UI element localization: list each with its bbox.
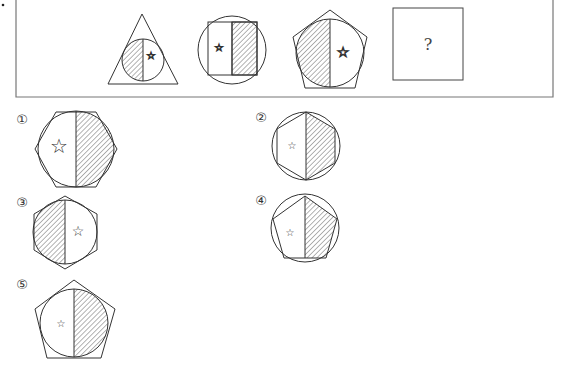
star-icon: ☆ bbox=[57, 318, 66, 329]
sequence-figure-2: ☆ bbox=[198, 16, 266, 84]
star-icon: ☆ bbox=[288, 140, 297, 151]
option-label: ① bbox=[16, 112, 28, 127]
question-mark: ? bbox=[424, 35, 433, 54]
sequence-figure-1: ☆ bbox=[108, 14, 178, 84]
option-2[interactable]: ② ☆ bbox=[255, 110, 340, 180]
puzzle-canvas: ☆ ☆ ☆ ? ① ☆ ② ☆ ③ bbox=[0, 0, 568, 366]
answer-placeholder-box: ? bbox=[393, 8, 463, 80]
option-label: ② bbox=[255, 110, 267, 125]
star-icon: ☆ bbox=[50, 134, 68, 158]
option-label: ④ bbox=[255, 193, 267, 208]
question-frame bbox=[16, 0, 553, 97]
option-4[interactable]: ④ ☆ bbox=[255, 193, 339, 262]
star-icon: ☆ bbox=[215, 42, 224, 53]
star-icon: ☆ bbox=[286, 227, 295, 238]
sequence-figure-3: ☆ bbox=[293, 10, 367, 88]
option-1[interactable]: ① ☆ bbox=[16, 111, 117, 187]
option-label: ⑤ bbox=[16, 277, 28, 292]
option-5[interactable]: ⑤ ☆ bbox=[16, 277, 115, 358]
bullet-dot bbox=[2, 4, 5, 7]
option-label: ③ bbox=[16, 195, 28, 210]
star-icon: ☆ bbox=[337, 44, 350, 60]
star-icon: ☆ bbox=[147, 50, 156, 61]
option-3[interactable]: ③ ☆ bbox=[16, 195, 97, 269]
star-icon: ☆ bbox=[72, 223, 85, 239]
